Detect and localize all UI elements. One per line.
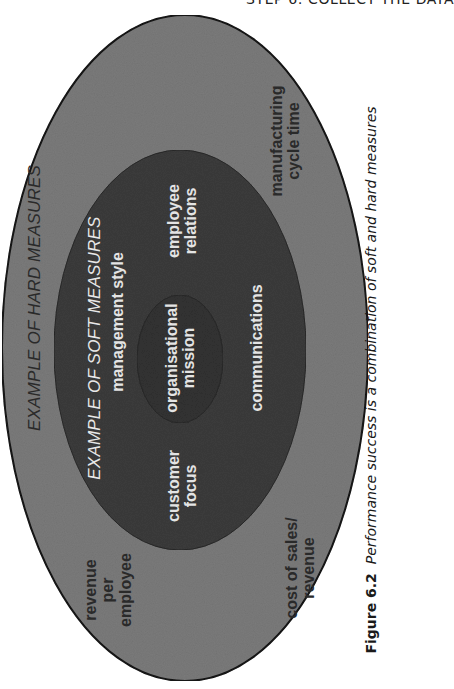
hard-measure-cost-of-sales-revenue: cost of sales/ revenue — [283, 517, 318, 618]
label-line: revenue — [300, 517, 317, 618]
figure-label: Figure 6.2 — [363, 573, 379, 653]
label-line: employee — [165, 184, 182, 258]
label-line: employee — [117, 553, 134, 627]
label-line: relations — [182, 184, 199, 258]
soft-measure-employee-relations: employee relations — [165, 184, 200, 258]
figure-caption: Figure 6.2 Performance success is a comb… — [364, 106, 379, 653]
label-line: customer — [165, 450, 182, 522]
label-line: mission — [180, 303, 197, 412]
soft-measure-communications: communications — [248, 284, 265, 411]
label-line: cost of sales/ — [283, 517, 300, 618]
soft-measures-title: EXAMPLE OF SOFT MEASURES — [86, 216, 104, 479]
label-line: focus — [182, 450, 199, 522]
label-line: revenue — [82, 553, 99, 627]
label-line: cycle time — [285, 85, 302, 196]
label-line: per — [99, 553, 116, 627]
caption-text: Performance success is a combination of … — [363, 106, 379, 564]
hard-measure-manufacturing-cycle-time: manufacturing cycle time — [268, 85, 303, 196]
hard-measures-title: EXAMPLE OF HARD MEASURES — [26, 165, 44, 431]
soft-measure-customer-focus: customer focus — [165, 450, 200, 522]
core-organisational-mission: organisational mission — [163, 303, 198, 412]
label-line: manufacturing — [268, 85, 285, 196]
soft-measure-management-style: management style — [109, 252, 126, 392]
hard-measure-revenue-per-employee: revenue per employee — [82, 553, 134, 627]
label-line: organisational — [163, 303, 180, 412]
